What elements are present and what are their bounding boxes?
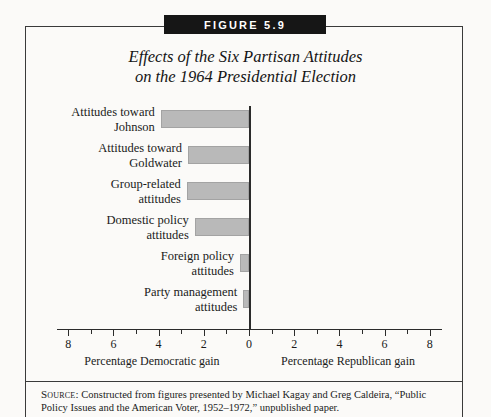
axis-caption-right: Percentage Republican gain <box>248 354 448 369</box>
x-axis-tick-label: 4 <box>327 337 351 352</box>
x-axis-tick-label: 4 <box>147 337 171 352</box>
bar-row: Attitudes towardGoldwater <box>188 146 249 164</box>
x-axis-minor-tick <box>407 330 408 334</box>
bar-label: Attitudes towardJohnson <box>0 105 155 134</box>
x-axis-tick-label: 6 <box>373 337 397 352</box>
x-axis-minor-tick <box>272 330 273 334</box>
bar-label-line-1: Group-related <box>111 177 181 191</box>
bar-fill <box>240 254 249 272</box>
x-axis-minor-tick <box>181 330 182 334</box>
source-divider <box>25 381 463 382</box>
bar-fill <box>243 290 249 308</box>
bar-label-line-2: attitudes <box>44 264 234 279</box>
x-axis-tick <box>68 330 69 336</box>
bar-label-line-2: Johnson <box>0 120 155 135</box>
bar-label-line-2: Goldwater <box>0 156 182 171</box>
bar-label-line-1: Attitudes toward <box>98 141 182 155</box>
bar-label-line-1: Attitudes toward <box>71 105 155 119</box>
bar-row: Attitudes towardJohnson <box>161 110 249 128</box>
x-axis-minor-tick <box>362 330 363 334</box>
x-axis-tick <box>159 330 160 336</box>
bar-fill <box>187 182 249 200</box>
bar-row: Party managementattitudes <box>243 290 249 308</box>
bar-fill <box>195 218 249 236</box>
bar-row: Foreign policyattitudes <box>240 254 249 272</box>
bar-label-line-1: Domestic policy <box>106 213 188 227</box>
x-axis-minor-tick <box>226 330 227 334</box>
source-note: Source: Constructed from figures present… <box>41 388 449 414</box>
axis-caption-left: Percentage Democratic gain <box>52 354 252 369</box>
bar-label-line-2: attitudes <box>0 228 189 243</box>
source-text: Constructed from figures presented by Mi… <box>41 389 426 413</box>
x-axis-tick-label: 2 <box>192 337 216 352</box>
x-axis-tick <box>113 330 114 336</box>
bar-fill <box>161 110 249 128</box>
bar-label: Foreign policyattitudes <box>44 249 234 278</box>
x-axis-minor-tick <box>136 330 137 334</box>
bar-label: Party managementattitudes <box>47 285 237 314</box>
x-axis-tick-label: 0 <box>237 337 261 352</box>
x-axis-minor-tick <box>91 330 92 334</box>
x-axis-tick-label: 8 <box>56 337 80 352</box>
bar-row: Group-relatedattitudes <box>187 182 249 200</box>
x-axis-tick <box>385 330 386 336</box>
bar-label-line-2: attitudes <box>47 300 237 315</box>
bar-row: Domestic policyattitudes <box>195 218 249 236</box>
x-axis-tick <box>249 330 250 336</box>
x-axis-minor-tick <box>317 330 318 334</box>
bar-label-line-1: Party management <box>144 285 237 299</box>
x-axis-tick <box>430 330 431 336</box>
x-axis-tick <box>339 330 340 336</box>
bar-fill <box>188 146 249 164</box>
bar-label-line-2: attitudes <box>0 192 181 207</box>
bar-label-line-1: Foreign policy <box>161 249 234 263</box>
bar-label: Group-relatedattitudes <box>0 177 181 206</box>
bar-label: Attitudes towardGoldwater <box>0 141 182 170</box>
x-axis-tick-label: 6 <box>101 337 125 352</box>
x-axis-tick-label: 2 <box>282 337 306 352</box>
bar-label: Domestic policyattitudes <box>0 213 189 242</box>
figure-number-badge: FIGURE 5.9 <box>164 15 326 34</box>
x-axis-tick-label: 8 <box>418 337 442 352</box>
zero-axis-line <box>249 106 251 330</box>
x-axis-tick <box>294 330 295 336</box>
x-axis-tick <box>204 330 205 336</box>
source-label: Source: <box>41 388 79 400</box>
chart-plot-area: Attitudes towardJohnsonAttitudes towardG… <box>0 0 491 417</box>
